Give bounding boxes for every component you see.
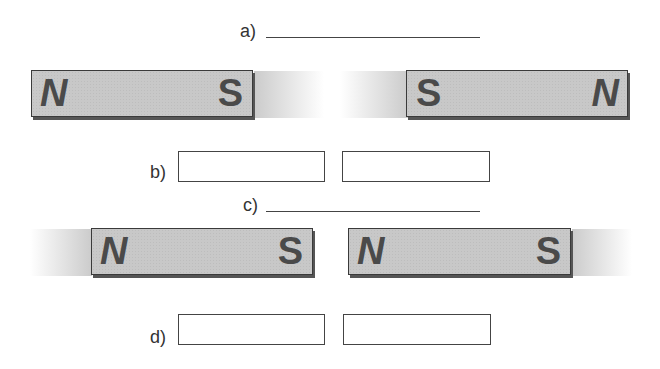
south-pole-label: S	[218, 74, 243, 112]
answer-box-b-left[interactable]	[178, 151, 325, 182]
bar-magnet-top-right: S N	[406, 70, 628, 117]
magnetic-field-shading	[572, 229, 632, 276]
north-pole-label: N	[592, 74, 619, 112]
magnetic-field-shading	[340, 71, 408, 118]
question-a-answer-line[interactable]	[266, 37, 480, 38]
north-pole-label: N	[357, 232, 384, 270]
bar-magnet-top-left: N S	[31, 70, 253, 117]
question-b-label: b)	[150, 163, 166, 181]
bar-magnet-bottom-left: N S	[91, 228, 313, 275]
question-d-label: d)	[150, 328, 166, 346]
answer-box-d-left[interactable]	[178, 314, 325, 345]
magnetic-field-shading	[30, 229, 92, 276]
south-pole-label: S	[536, 232, 561, 270]
answer-box-b-right[interactable]	[342, 151, 490, 182]
answer-box-d-right[interactable]	[343, 314, 491, 345]
bar-magnet-bottom-right: N S	[348, 228, 571, 275]
north-pole-label: N	[100, 232, 127, 270]
question-a-label: a)	[240, 22, 256, 40]
south-pole-label: S	[416, 74, 441, 112]
south-pole-label: S	[278, 232, 303, 270]
question-c-label: c)	[243, 196, 258, 214]
magnetic-field-shading	[254, 71, 324, 118]
north-pole-label: N	[40, 74, 67, 112]
question-c-answer-line[interactable]	[266, 211, 480, 212]
